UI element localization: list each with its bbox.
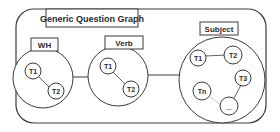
verb-label: Verb (115, 39, 132, 48)
subject-node-t1-label: T1 (194, 55, 202, 62)
verb-node-t1-label: T1 (104, 63, 112, 70)
group-subject: Subject T1 T2 T3 Tn ... (179, 22, 265, 123)
subject-node-tn-label: Tn (198, 88, 207, 95)
question-graph-diagram: Generic Question Graph WH T1 T2 Verb T1 … (0, 0, 280, 132)
subject-label: Subject (205, 25, 234, 34)
wh-node-t1-label: T1 (29, 68, 37, 75)
subject-node-t3-label: T3 (239, 75, 247, 82)
title-text: Generic Question Graph (40, 14, 144, 24)
group-wh: WH T1 T2 (13, 38, 73, 108)
group-verb: Verb T1 T2 (88, 36, 148, 106)
verb-node-t2-label: T2 (127, 86, 135, 93)
subject-node-ellipsis-label: ... (226, 105, 231, 111)
verb-circle (88, 46, 148, 106)
wh-label: WH (38, 41, 52, 50)
wh-node-t2-label: T2 (52, 88, 60, 95)
subject-node-t2-label: T2 (229, 52, 237, 59)
wh-circle (13, 48, 73, 108)
